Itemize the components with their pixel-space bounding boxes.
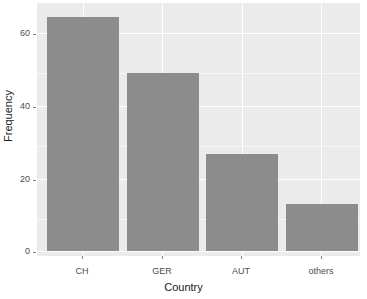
x-tick-mark-ch — [82, 256, 83, 259]
bar-ch[interactable] — [47, 17, 119, 251]
y-tick-mark-20 — [33, 180, 36, 181]
bar-aut[interactable] — [206, 154, 278, 251]
y-tick-mark-60 — [33, 34, 36, 35]
x-tick-mark-aut — [241, 256, 242, 259]
gridline-major-0 — [37, 251, 360, 252]
x-tick-mark-others — [321, 256, 322, 259]
plot-panel — [37, 3, 360, 256]
y-tick-label-60: 60 — [4, 29, 30, 38]
y-tick-mark-40 — [33, 107, 36, 108]
x-tick-label-ger: GER — [132, 266, 192, 276]
x-axis-title: Country — [0, 281, 367, 293]
x-tick-label-others: others — [291, 266, 351, 276]
x-tick-label-ch: CH — [52, 266, 112, 276]
y-tick-label-0: 0 — [4, 247, 30, 256]
x-tick-label-aut: AUT — [211, 266, 271, 276]
y-axis-title: Frequency — [2, 56, 14, 176]
bar-chart: 60 40 20 0 CH GER AUT others Country Fre… — [0, 0, 367, 299]
y-tick-mark-0 — [33, 252, 36, 253]
bar-ger[interactable] — [127, 73, 199, 252]
x-tick-mark-ger — [162, 256, 163, 259]
bar-others[interactable] — [286, 204, 358, 251]
y-tick-label-20: 20 — [4, 175, 30, 184]
